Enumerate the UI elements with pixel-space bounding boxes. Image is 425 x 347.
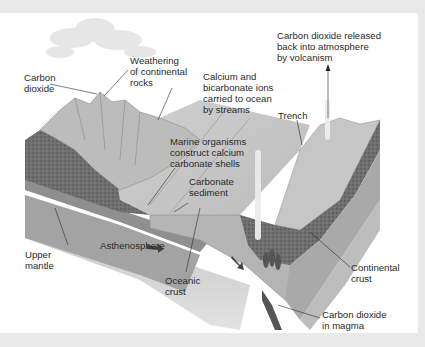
label-asthenosphere: Asthenosphere [100,240,165,251]
label-volcanism: Carbon dioxide released back into atmosp… [277,30,381,63]
label-co2-in-magma: Carbon dioxide in magma [322,309,387,331]
label-upper-mantle: Upper mantle [25,249,54,271]
label-carbon-dioxide: Carbon dioxide [24,72,55,94]
label-trench: Trench [278,110,308,121]
arrow-up-icon [326,64,331,71]
label-continental-crust: Continental crust [351,262,400,284]
label-weathering: Weathering of continental rocks [130,55,187,88]
label-marine-organisms: Marine organisms construct calcium carbo… [170,136,246,169]
label-ions: Calcium and bicarbonate ions carried to … [203,71,273,115]
label-oceanic-crust: Oceanic crust [165,275,200,297]
label-carbonate-sediment: Carbonate sediment [189,176,234,198]
cloud-shape [46,18,156,58]
